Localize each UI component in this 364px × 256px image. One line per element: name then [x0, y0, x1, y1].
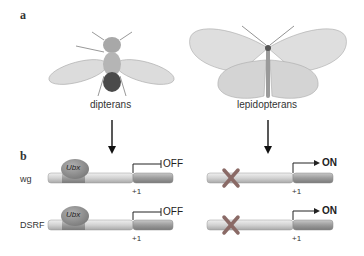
arrow-down-dipterans: [108, 120, 116, 154]
ubx-label-wg: Ubx: [66, 163, 80, 172]
state-wg-lepidopteran: ON: [322, 157, 337, 168]
state-dsrf-lepidopteran: ON: [322, 205, 337, 216]
state-dsrf-dipteran: OFF: [163, 206, 183, 217]
panel-b-label: b: [20, 149, 27, 164]
arrow-down-lepidopterans: [264, 120, 272, 154]
tss-dsrf-lepidopteran: +1: [292, 234, 301, 243]
ubx-label-dsrf: Ubx: [66, 210, 80, 219]
tss-wg-lepidopteran: +1: [292, 187, 301, 196]
state-wg-dipteran: OFF: [163, 158, 183, 169]
panel-a-label: a: [20, 8, 26, 23]
gene-label-dsrf: DSRF: [20, 220, 45, 230]
butterfly-illustration: [190, 26, 347, 98]
tss-dsrf-dipteran: +1: [132, 234, 141, 243]
diagram-canvas: [0, 0, 364, 256]
gene-label-wg: wg: [20, 174, 32, 184]
dipterans-caption: dipterans: [90, 99, 131, 110]
lepidopterans-caption: lepidopterans: [237, 99, 297, 110]
tss-wg-dipteran: +1: [132, 187, 141, 196]
fly-illustration: [46, 32, 176, 96]
